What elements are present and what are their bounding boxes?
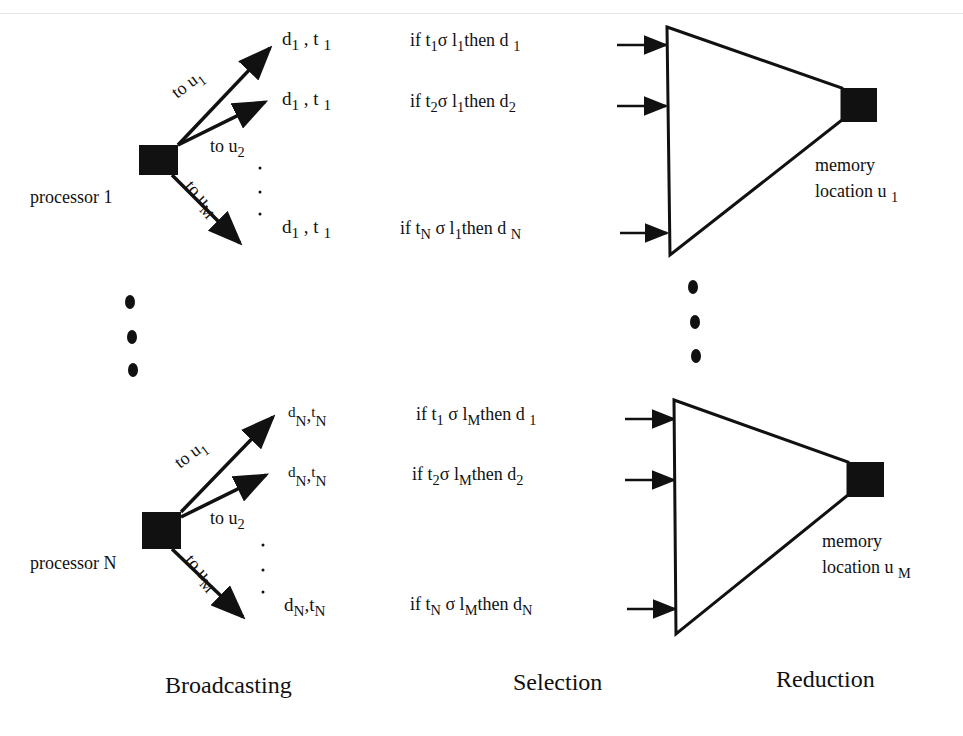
- arrow-label-to-u2: to u2: [210, 508, 245, 529]
- memory-location-1-label: memory location u 1: [815, 152, 898, 205]
- processor-1-label: processor 1: [30, 187, 112, 208]
- message-row-N: d1 , t 1: [282, 216, 331, 238]
- broadcast-arrow-to-u1: [178, 48, 270, 145]
- memory-square-M: [848, 462, 884, 497]
- selection-row-2: if t2σ l1then d2: [410, 91, 516, 112]
- stage-selection: Selection: [513, 669, 602, 696]
- memory-location-M-label: memory location u M: [822, 528, 911, 581]
- selection-row-1: if t1σ l1then d 1: [410, 30, 520, 51]
- processor-N-label: processor N: [30, 553, 116, 574]
- ellipsis-dot: [262, 544, 265, 547]
- reduction-funnel-M: [674, 400, 848, 634]
- ellipsis-dot: [262, 569, 265, 572]
- vertical-ellipsis-left: [125, 295, 138, 377]
- message-row-2: dN,tN: [288, 464, 327, 486]
- processor-N-square: [142, 512, 181, 549]
- selection-row-1: if t1 σ lMthen d 1: [416, 404, 536, 425]
- broadcast-arrow-to-u1: [181, 417, 273, 512]
- reduction-funnel-1: [667, 27, 842, 255]
- message-row-N: dN,tN: [284, 594, 325, 616]
- message-row-1: d1 , t 1: [282, 28, 331, 50]
- ellipsis-dot: [259, 191, 262, 194]
- selection-row-2: if t2σ lMthen d2: [412, 464, 523, 485]
- vertical-ellipsis-right: [688, 280, 701, 363]
- selection-row-N: if tN σ lMthen dN: [410, 594, 532, 615]
- selection-row-N: if tN σ l1then d N: [400, 218, 521, 239]
- message-row-2: d1 , t 1: [282, 88, 331, 110]
- memory-square-1: [842, 88, 877, 122]
- arrow-label-to-u2: to u2: [210, 136, 245, 157]
- stage-broadcasting: Broadcasting: [165, 672, 292, 699]
- processor-1-square: [139, 145, 178, 175]
- ellipsis-dot: [262, 591, 265, 594]
- message-row-1: dN,tN: [288, 404, 327, 426]
- stage-reduction: Reduction: [776, 666, 875, 693]
- ellipsis-dot: [259, 213, 262, 216]
- ellipsis-dot: [259, 167, 262, 170]
